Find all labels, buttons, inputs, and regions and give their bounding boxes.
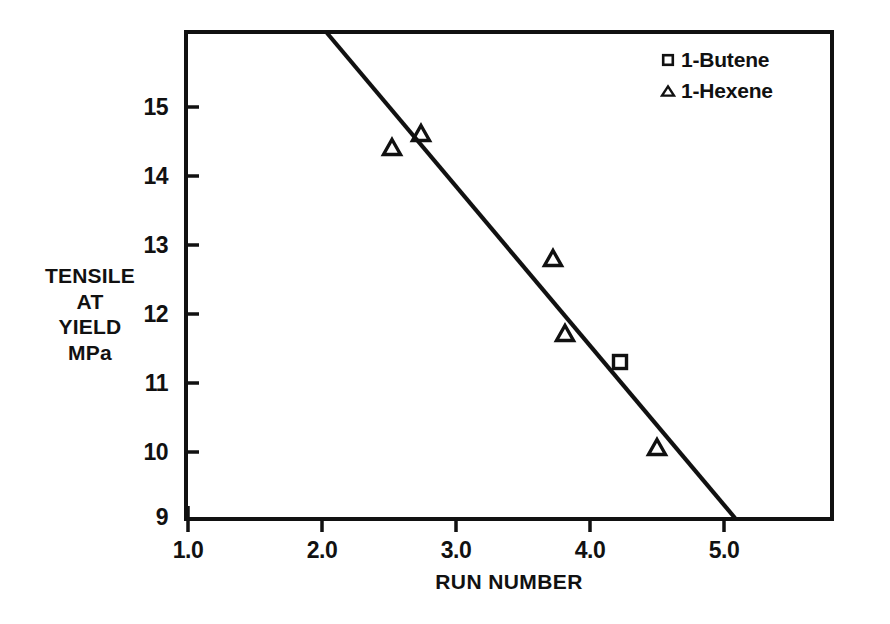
legend-label-1-hexene: 1-Hexene xyxy=(681,79,773,103)
y-tick-label-15: 15 xyxy=(110,94,168,121)
data-point-triangle xyxy=(649,440,666,455)
data-point-square xyxy=(614,356,627,369)
y-axis-label: TENSILE AT YIELD MPa xyxy=(14,263,166,365)
series-1-hexene-markers xyxy=(384,126,666,455)
chart-figure: 15 14 13 12 11 10 9 1.0 2.0 3.0 4.0 5.0 … xyxy=(0,0,890,624)
data-point-triangle xyxy=(413,126,430,141)
data-point-triangle xyxy=(557,326,574,341)
y-tick-label-9: 9 xyxy=(110,504,168,531)
y-axis-label-line-4: MPa xyxy=(14,340,166,366)
triangle-marker-icon xyxy=(655,84,681,98)
y-tick-label-13: 13 xyxy=(110,232,168,259)
x-tick-label-5: 5.0 xyxy=(709,537,739,564)
x-tick-label-2: 2.0 xyxy=(307,537,337,564)
y-axis-label-line-2: AT xyxy=(14,289,166,315)
chart-legend: 1-Butene 1-Hexene xyxy=(655,44,855,106)
legend-item-1-butene: 1-Butene xyxy=(655,44,855,75)
legend-item-1-hexene: 1-Hexene xyxy=(655,75,855,106)
legend-label-1-butene: 1-Butene xyxy=(681,48,769,72)
data-point-triangle xyxy=(384,140,401,155)
y-tick-label-14: 14 xyxy=(110,163,168,190)
series-1-butene-markers xyxy=(614,356,627,369)
y-tick-label-10: 10 xyxy=(110,439,168,466)
data-point-triangle xyxy=(545,251,562,266)
x-axis-label: RUN NUMBER xyxy=(186,570,832,594)
x-tick-label-3: 3.0 xyxy=(441,537,471,564)
x-tick-label-4: 4.0 xyxy=(575,537,605,564)
y-axis-label-line-1: TENSILE xyxy=(14,263,166,289)
square-marker-icon xyxy=(655,53,681,67)
y-tick-label-11: 11 xyxy=(110,370,168,397)
x-tick-label-1: 1.0 xyxy=(173,537,203,564)
y-axis-label-line-3: YIELD xyxy=(14,314,166,340)
